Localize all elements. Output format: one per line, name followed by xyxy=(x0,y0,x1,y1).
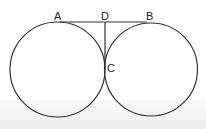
label-d: D xyxy=(101,11,109,22)
label-c: C xyxy=(107,63,115,74)
label-a: A xyxy=(54,11,61,22)
right-circle xyxy=(105,23,198,116)
left-circle xyxy=(10,22,105,117)
label-b: B xyxy=(146,11,153,22)
